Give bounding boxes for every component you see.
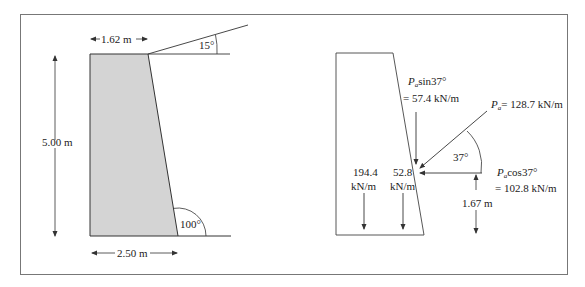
pa-horizontal-label-line2: = 102.8 kN/m [495, 182, 557, 194]
weight1-value: 194.4 [353, 166, 378, 178]
weight1-unit: kN/m [351, 180, 377, 192]
backfill-slope-line [148, 25, 248, 54]
pa-vertical-label-line2: = 57.4 kN/m [403, 92, 459, 104]
weight2-value: 52.8 [393, 166, 413, 178]
backfill-angle-arc [216, 35, 218, 54]
pa-vertical-label-line1: Pasin37° [407, 75, 446, 89]
lever-arm-label: 1.67 m [462, 197, 493, 209]
top-width-label: 1.62 m [101, 33, 132, 45]
backfill-angle-label: 15° [199, 39, 214, 51]
back-face-angle-label: 100° [180, 218, 201, 230]
retaining-wall-diagram: 15° 100° 1.62 m 5.00 m 2.50 m Pasin37° =… [0, 0, 585, 287]
right-figure: Pasin37° = 57.4 kN/m Pa= 128.7 kN/m 37° … [336, 53, 563, 235]
height-label: 5.00 m [42, 136, 73, 148]
wall-section [90, 54, 178, 236]
pa-horizontal-label-line1: Pacos37° [496, 166, 537, 180]
pa-angle-label: 37° [453, 151, 468, 163]
pa-resultant-label: Pa= 128.7 kN/m [490, 98, 563, 112]
left-figure: 15° 100° 1.62 m 5.00 m 2.50 m [42, 25, 248, 259]
weight2-unit: kN/m [390, 180, 416, 192]
base-width-label: 2.50 m [117, 247, 148, 259]
pa-angle-arc [467, 131, 482, 173]
